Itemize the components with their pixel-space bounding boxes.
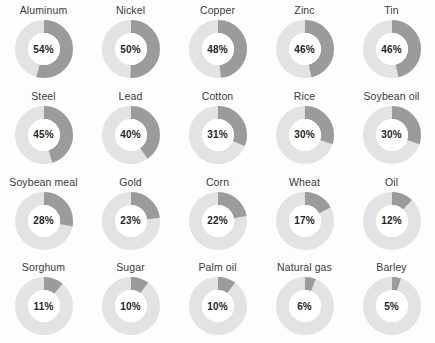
donut-cell: Sorghum11%: [0, 257, 87, 343]
donut-hole: [376, 33, 408, 65]
donut-chart: 40%: [100, 104, 162, 166]
donut-label: Corn: [206, 176, 229, 188]
donut-label: Palm oil: [198, 261, 236, 273]
donut-cell: Soybean oil30%: [348, 86, 435, 172]
donut-hole: [28, 290, 60, 322]
donut-label: Copper: [200, 4, 235, 16]
donut-svg: [274, 190, 336, 252]
donut-label: Wheat: [289, 176, 320, 188]
donut-label: Tin: [384, 4, 399, 16]
donut-chart: 46%: [274, 18, 336, 80]
donut-label: Sugar: [116, 261, 145, 273]
donut-label: Natural gas: [277, 261, 332, 273]
donut-hole: [202, 119, 234, 151]
donut-chart: 10%: [187, 275, 249, 337]
donut-cell: Rice30%: [261, 86, 348, 172]
donut-chart: 31%: [187, 104, 249, 166]
donut-cell: Gold23%: [87, 172, 174, 258]
donut-label: Rice: [294, 90, 315, 102]
donut-svg: [361, 275, 423, 337]
donut-hole: [28, 119, 60, 151]
donut-hole: [115, 205, 147, 237]
donut-hole: [289, 119, 321, 151]
donut-hole: [28, 205, 60, 237]
donut-svg: [100, 190, 162, 252]
donut-chart-grid: Aluminum54%Nickel50%Copper48%Zinc46%Tin4…: [0, 0, 435, 343]
donut-chart: 12%: [361, 190, 423, 252]
donut-svg: [187, 275, 249, 337]
donut-cell: Sugar10%: [87, 257, 174, 343]
donut-hole: [202, 33, 234, 65]
donut-cell: Aluminum54%: [0, 0, 87, 86]
donut-svg: [187, 104, 249, 166]
donut-chart: 5%: [361, 275, 423, 337]
donut-chart: 30%: [274, 104, 336, 166]
donut-chart: 22%: [187, 190, 249, 252]
donut-cell: Lead40%: [87, 86, 174, 172]
donut-hole: [289, 205, 321, 237]
donut-chart: 30%: [361, 104, 423, 166]
donut-chart: 54%: [13, 18, 75, 80]
donut-svg: [13, 18, 75, 80]
donut-chart: 6%: [274, 275, 336, 337]
donut-svg: [361, 190, 423, 252]
donut-label: Sorghum: [22, 261, 65, 273]
donut-chart: 11%: [13, 275, 75, 337]
donut-label: Cotton: [202, 90, 234, 102]
donut-cell: Steel45%: [0, 86, 87, 172]
donut-label: Lead: [119, 90, 143, 102]
donut-svg: [13, 104, 75, 166]
donut-cell: Barley5%: [348, 257, 435, 343]
donut-svg: [100, 18, 162, 80]
donut-hole: [115, 290, 147, 322]
donut-hole: [376, 205, 408, 237]
donut-label: Barley: [376, 261, 406, 273]
donut-cell: Wheat17%: [261, 172, 348, 258]
donut-label: Oil: [385, 176, 398, 188]
donut-hole: [376, 119, 408, 151]
donut-chart: 48%: [187, 18, 249, 80]
donut-chart: 50%: [100, 18, 162, 80]
donut-svg: [13, 190, 75, 252]
donut-chart: 46%: [361, 18, 423, 80]
donut-svg: [361, 18, 423, 80]
donut-chart: 45%: [13, 104, 75, 166]
donut-label: Gold: [119, 176, 142, 188]
donut-hole: [115, 119, 147, 151]
donut-hole: [115, 33, 147, 65]
donut-svg: [274, 275, 336, 337]
donut-cell: Soybean meal28%: [0, 172, 87, 258]
donut-chart: 17%: [274, 190, 336, 252]
donut-hole: [28, 33, 60, 65]
donut-cell: Tin46%: [348, 0, 435, 86]
donut-label: Soybean oil: [363, 90, 419, 102]
donut-chart: 28%: [13, 190, 75, 252]
donut-cell: Oil12%: [348, 172, 435, 258]
donut-svg: [361, 104, 423, 166]
donut-hole: [376, 290, 408, 322]
donut-hole: [289, 290, 321, 322]
donut-label: Aluminum: [20, 4, 68, 16]
donut-svg: [274, 18, 336, 80]
donut-label: Soybean meal: [9, 176, 77, 188]
donut-hole: [202, 290, 234, 322]
donut-cell: Copper48%: [174, 0, 261, 86]
donut-cell: Nickel50%: [87, 0, 174, 86]
donut-cell: Natural gas6%: [261, 257, 348, 343]
donut-svg: [274, 104, 336, 166]
donut-cell: Palm oil10%: [174, 257, 261, 343]
donut-chart: 10%: [100, 275, 162, 337]
donut-label: Zinc: [294, 4, 314, 16]
donut-svg: [100, 275, 162, 337]
donut-svg: [100, 104, 162, 166]
donut-hole: [202, 205, 234, 237]
donut-label: Nickel: [116, 4, 145, 16]
donut-chart: 23%: [100, 190, 162, 252]
donut-cell: Zinc46%: [261, 0, 348, 86]
donut-svg: [187, 18, 249, 80]
donut-label: Steel: [31, 90, 55, 102]
donut-cell: Corn22%: [174, 172, 261, 258]
donut-cell: Cotton31%: [174, 86, 261, 172]
donut-hole: [289, 33, 321, 65]
donut-svg: [13, 275, 75, 337]
